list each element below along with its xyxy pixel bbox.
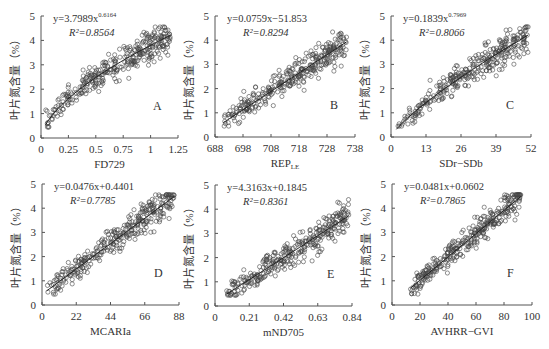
regression-equation: y=0.0481x+0.0602 bbox=[404, 181, 484, 192]
panel-letter: F bbox=[507, 266, 514, 280]
y-tick-label: 5 bbox=[380, 10, 386, 22]
y-tick-label: 5 bbox=[204, 179, 210, 191]
regression-line bbox=[410, 197, 521, 289]
x-tick-label: 60 bbox=[471, 310, 483, 322]
x-tick-label: 0 bbox=[212, 311, 218, 323]
y-tick-label: 1 bbox=[204, 107, 210, 119]
y-axis-label: 叶片氮含量（%） bbox=[182, 202, 195, 288]
figure: 01234500.250.50.7511.25FD729叶片氮含量（%）y=3.… bbox=[0, 0, 549, 349]
x-tick-label: 13 bbox=[421, 142, 433, 154]
x-tick-label: 728 bbox=[319, 142, 336, 154]
y-tick-label: 0 bbox=[30, 132, 36, 144]
panel-letter: E bbox=[327, 267, 334, 281]
y-tick-label: 4 bbox=[381, 202, 387, 214]
x-tick-label: 0.75 bbox=[114, 143, 134, 155]
y-tick-label: 0 bbox=[31, 299, 37, 311]
r-squared-label: R²=0.8361 bbox=[242, 196, 289, 207]
x-axis-label: mND705 bbox=[263, 326, 304, 338]
scatter-points bbox=[396, 25, 530, 128]
x-tick-label: 0 bbox=[389, 310, 395, 322]
x-tick-label: 0.21 bbox=[240, 311, 259, 323]
x-tick-label: 1.25 bbox=[168, 143, 188, 155]
panel-b: 012345688698708718728738REPLE叶片氮含量（%）y=0… bbox=[182, 10, 364, 171]
x-tick-label: 0.84 bbox=[342, 311, 362, 323]
y-tick-label: 3 bbox=[381, 226, 387, 238]
y-tick-label: 2 bbox=[204, 83, 210, 95]
x-tick-label: 0.25 bbox=[59, 143, 79, 155]
r-squared-label: R²=0.7785 bbox=[69, 195, 116, 206]
x-tick-label: 100 bbox=[524, 310, 541, 322]
y-tick-label: 4 bbox=[31, 202, 37, 214]
x-tick-label: 708 bbox=[263, 142, 280, 154]
y-tick-label: 3 bbox=[204, 58, 210, 70]
y-tick-label: 2 bbox=[380, 83, 386, 95]
x-tick-label: 88 bbox=[174, 310, 186, 322]
panel-c: 012345013263952SDr−SDb叶片氮含量（%）y=0.1839x0… bbox=[358, 10, 537, 169]
y-tick-label: 4 bbox=[30, 34, 36, 46]
regression-line bbox=[223, 42, 346, 123]
x-axis-label: REPLE bbox=[271, 157, 300, 171]
y-tick-label: 1 bbox=[380, 107, 386, 119]
panel-letter: A bbox=[153, 99, 162, 113]
regression-equation: y=0.0759x−51.853 bbox=[227, 13, 307, 24]
y-tick-label: 4 bbox=[204, 203, 210, 215]
x-axis-label: SDr−SDb bbox=[439, 157, 483, 169]
x-tick-label: 44 bbox=[105, 310, 117, 322]
scatter-points bbox=[44, 25, 173, 129]
x-tick-label: 1 bbox=[148, 143, 154, 155]
x-tick-label: 66 bbox=[139, 310, 151, 322]
y-tick-label: 5 bbox=[381, 178, 387, 190]
y-tick-label: 5 bbox=[31, 178, 37, 190]
panel-letter: D bbox=[154, 266, 163, 280]
y-tick-label: 1 bbox=[381, 275, 387, 287]
regression-equation: y=3.7989x0.6164 bbox=[53, 11, 117, 24]
scatter-points bbox=[409, 193, 523, 296]
y-tick-label: 2 bbox=[31, 251, 37, 263]
x-tick-label: 0.63 bbox=[308, 311, 328, 323]
y-axis-label: 叶片氮含量（%） bbox=[8, 34, 21, 120]
regression-equation: y=4.3163x+0.1845 bbox=[227, 182, 307, 193]
y-tick-label: 2 bbox=[204, 252, 210, 264]
x-tick-label: 0.42 bbox=[274, 311, 293, 323]
y-axis-label: 叶片氮含量（%） bbox=[358, 33, 371, 119]
y-tick-label: 1 bbox=[31, 275, 37, 287]
x-tick-label: 718 bbox=[291, 142, 308, 154]
x-tick-label: 40 bbox=[443, 310, 455, 322]
x-tick-label: 0 bbox=[38, 143, 44, 155]
x-tick-label: 0 bbox=[39, 310, 45, 322]
regression-line bbox=[226, 216, 348, 294]
y-tick-label: 5 bbox=[204, 10, 210, 22]
panel-letter: C bbox=[506, 98, 514, 112]
panel-f: 012345020406080100AVHRR−GVI叶片氮含量（%）y=0.0… bbox=[359, 178, 541, 337]
panel-letter: B bbox=[330, 98, 338, 112]
y-axis-label: 叶片氮含量（%） bbox=[182, 33, 195, 119]
r-squared-label: R²=0.8564 bbox=[68, 27, 115, 38]
y-tick-label: 0 bbox=[380, 131, 386, 143]
panel-e: 01234500.210.420.630.84mND705叶片氮含量（%）y=4… bbox=[182, 179, 362, 338]
x-axis-label: MCARIa bbox=[90, 325, 131, 337]
y-tick-label: 4 bbox=[204, 34, 210, 46]
x-tick-label: 39 bbox=[491, 142, 503, 154]
regression-equation: y=0.0476x+0.4401 bbox=[54, 181, 134, 192]
x-tick-label: 688 bbox=[207, 142, 224, 154]
y-axis-label: 叶片氮含量（%） bbox=[9, 201, 22, 287]
y-tick-label: 3 bbox=[204, 227, 210, 239]
y-axis-label: 叶片氮含量（%） bbox=[359, 201, 372, 287]
x-tick-label: 738 bbox=[347, 142, 364, 154]
y-tick-label: 2 bbox=[30, 83, 36, 95]
x-tick-label: 22 bbox=[71, 310, 82, 322]
scatter-points bbox=[225, 198, 351, 298]
x-axis-label: AVHRR−GVI bbox=[431, 325, 494, 337]
y-tick-label: 5 bbox=[30, 10, 36, 22]
y-tick-label: 4 bbox=[380, 34, 386, 46]
x-tick-label: 0 bbox=[388, 142, 394, 154]
panel-d: 012345022446688MCARIa叶片氮含量（%）y=0.0476x+0… bbox=[9, 178, 185, 337]
y-tick-label: 1 bbox=[30, 108, 36, 120]
panel-a: 01234500.250.50.7511.25FD729叶片氮含量（%）y=3.… bbox=[8, 10, 188, 170]
y-tick-label: 2 bbox=[381, 251, 387, 263]
x-tick-label: 698 bbox=[235, 142, 252, 154]
r-squared-label: R²=0.7865 bbox=[419, 195, 466, 206]
x-tick-label: 80 bbox=[499, 310, 511, 322]
x-tick-label: 0.5 bbox=[89, 143, 103, 155]
y-tick-label: 0 bbox=[204, 300, 210, 312]
